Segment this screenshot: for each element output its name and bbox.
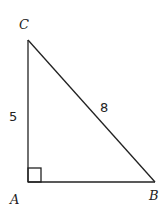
triangle bbox=[28, 40, 155, 182]
side-label-bc: 8 bbox=[100, 100, 108, 115]
right-angle-marker bbox=[28, 168, 41, 182]
side-bc bbox=[28, 40, 155, 182]
triangle-diagram: C A B 5 8 bbox=[0, 0, 167, 213]
vertex-label-a: A bbox=[9, 192, 19, 207]
vertex-label-c: C bbox=[19, 17, 29, 32]
side-label-ac: 5 bbox=[9, 109, 17, 124]
vertex-label-b: B bbox=[148, 188, 159, 203]
